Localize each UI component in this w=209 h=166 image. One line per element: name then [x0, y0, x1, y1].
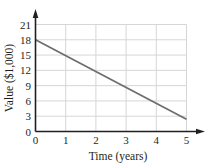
x-tick-label: 2	[93, 134, 99, 146]
data-series	[36, 40, 187, 119]
y-axis-label: Value ($1,000)	[3, 44, 16, 113]
x-tick-label: 0	[33, 134, 39, 146]
grid-lines	[36, 25, 187, 132]
x-axis-arrow-icon	[196, 129, 205, 135]
x-axis-label: Time (years)	[89, 150, 148, 163]
x-tick-labels: 012345	[33, 134, 190, 146]
x-tick-label: 4	[154, 134, 160, 146]
y-tick-label: 6	[26, 95, 32, 107]
y-tick-label: 15	[20, 49, 32, 61]
y-tick-label: 12	[20, 64, 31, 76]
y-tick-label: 18	[20, 34, 32, 46]
y-tick-label: 3	[26, 110, 32, 122]
x-tick-label: 1	[63, 134, 69, 146]
y-axis-arrow-icon	[33, 9, 39, 18]
y-tick-label: 21	[20, 19, 31, 31]
value-line	[36, 40, 187, 119]
x-tick-label: 5	[184, 134, 190, 146]
y-tick-label: 0	[26, 126, 32, 138]
line-chart: 036912151821 012345 Time (years) Value (…	[0, 0, 209, 166]
x-tick-label: 3	[123, 134, 129, 146]
y-tick-label: 9	[26, 80, 32, 92]
y-tick-labels: 036912151821	[20, 19, 32, 138]
